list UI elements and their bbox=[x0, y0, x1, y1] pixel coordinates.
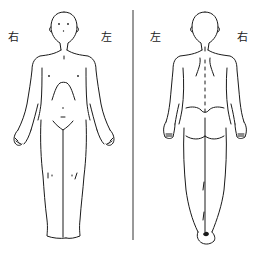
front-eye-right bbox=[58, 23, 60, 25]
body-chart: 右 左 左 右 bbox=[0, 0, 263, 256]
front-eye-left bbox=[67, 23, 69, 25]
front-groin bbox=[53, 121, 73, 130]
back-label-left: 左 bbox=[150, 32, 161, 44]
back-hand-right bbox=[164, 122, 175, 139]
front-knee-left bbox=[72, 173, 77, 179]
front-nipple-left bbox=[77, 75, 79, 77]
back-heel-shade bbox=[203, 232, 209, 237]
back-ears bbox=[191, 27, 220, 32]
front-knee-right bbox=[48, 173, 52, 178]
front-ribcage bbox=[52, 82, 75, 100]
front-label-left: 左 bbox=[101, 32, 112, 44]
back-scapula-left bbox=[210, 58, 214, 76]
body-chart-drawing bbox=[0, 0, 263, 256]
back-head bbox=[192, 12, 218, 50]
front-hand-left bbox=[97, 130, 114, 145]
back-label-right: 右 bbox=[237, 32, 248, 44]
front-navel bbox=[62, 107, 64, 109]
back-figure bbox=[164, 12, 247, 244]
front-label-right: 右 bbox=[8, 32, 19, 44]
front-nipple-right bbox=[48, 75, 50, 77]
back-scapula-right bbox=[196, 58, 200, 76]
front-legs bbox=[41, 120, 87, 238]
front-nose bbox=[63, 30, 64, 31]
front-hand-right bbox=[14, 130, 31, 145]
back-hand-left bbox=[235, 122, 246, 139]
back-calf-mark bbox=[203, 182, 204, 220]
front-torso-sides bbox=[38, 68, 90, 120]
front-torso-outline bbox=[18, 50, 110, 130]
front-figure bbox=[14, 12, 114, 238]
back-legs bbox=[184, 128, 227, 232]
